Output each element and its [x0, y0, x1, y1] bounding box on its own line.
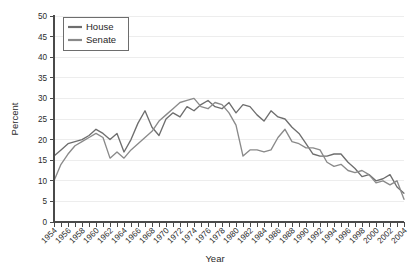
y-tick-label: 40 [38, 53, 48, 62]
y-tick-label: 25 [38, 115, 48, 124]
legend-label-senate: Senate [86, 34, 116, 45]
chart-container: 05101520253035404550 1954195619581960196… [0, 0, 420, 270]
series-lines [54, 98, 404, 199]
x-axis: 1954195619581960196219641966196819701972… [40, 222, 410, 245]
y-tick-label: 30 [38, 94, 48, 103]
y-tick-label: 45 [38, 33, 48, 42]
y-tick-label: 50 [38, 12, 48, 21]
y-tick-label: 35 [38, 74, 48, 83]
x-axis-title: Year [205, 253, 224, 264]
y-axis: 05101520253035404550 [38, 12, 54, 227]
legend-label-house: House [86, 21, 113, 32]
y-tick-label: 20 [38, 136, 48, 145]
series-line-senate [54, 98, 404, 199]
legend: HouseSenate [63, 17, 128, 50]
y-tick-label: 5 [42, 197, 47, 206]
y-tick-label: 0 [42, 218, 47, 227]
y-tick-label: 10 [38, 177, 48, 186]
line-chart: 05101520253035404550 1954195619581960196… [0, 0, 420, 270]
y-tick-label: 15 [38, 156, 48, 165]
y-axis-title: Percent [9, 102, 20, 135]
x-tick-label: 2004 [390, 226, 410, 246]
